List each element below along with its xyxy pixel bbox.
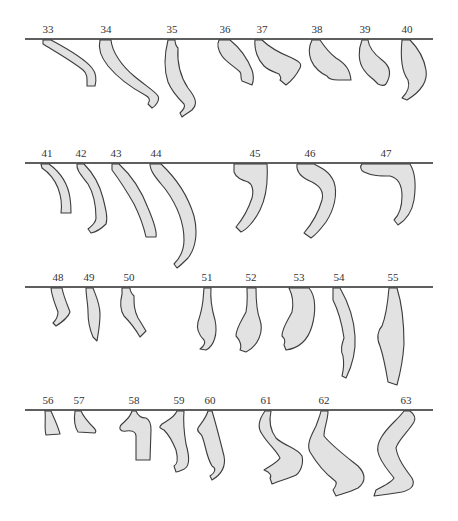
label-62: 62 xyxy=(319,394,330,406)
label-45: 45 xyxy=(250,147,262,159)
specimen-46 xyxy=(297,164,336,238)
label-36: 36 xyxy=(220,23,232,35)
specimen-40 xyxy=(401,40,426,100)
specimen-52 xyxy=(236,288,261,352)
specimen-59 xyxy=(160,411,189,472)
specimen-35 xyxy=(165,40,195,117)
label-37: 37 xyxy=(257,23,269,35)
specimen-62 xyxy=(309,411,364,496)
label-53: 53 xyxy=(294,271,306,283)
specimen-50 xyxy=(121,288,146,337)
label-49: 49 xyxy=(84,271,96,283)
specimen-63 xyxy=(374,411,415,496)
specimen-48 xyxy=(51,288,70,326)
label-44: 44 xyxy=(151,147,163,159)
specimen-33 xyxy=(43,40,96,86)
label-52: 52 xyxy=(246,271,257,283)
specimen-47 xyxy=(361,164,415,225)
specimen-41 xyxy=(41,164,71,213)
specimen-34 xyxy=(99,40,158,108)
label-55: 55 xyxy=(388,271,400,283)
specimen-56 xyxy=(45,411,60,435)
specimen-53 xyxy=(282,288,315,350)
specimen-54 xyxy=(333,288,355,378)
row-2: 41 42 43 44 45 46 47 xyxy=(25,147,433,268)
specimen-60 xyxy=(197,411,224,480)
specimen-57 xyxy=(74,411,95,433)
specimen-61 xyxy=(259,411,303,484)
label-50: 50 xyxy=(124,271,136,283)
specimen-38 xyxy=(309,40,351,80)
label-56: 56 xyxy=(43,394,55,406)
label-59: 59 xyxy=(174,394,186,406)
row-1: 33 34 35 36 37 38 39 40 xyxy=(25,23,433,117)
label-41: 41 xyxy=(42,147,53,159)
row-4: 56 57 58 59 60 61 62 63 xyxy=(25,394,433,496)
label-58: 58 xyxy=(129,394,141,406)
label-40: 40 xyxy=(402,23,414,35)
label-38: 38 xyxy=(312,23,324,35)
label-63: 63 xyxy=(401,394,413,406)
specimen-44 xyxy=(150,164,196,268)
label-61: 61 xyxy=(261,394,272,406)
specimen-49 xyxy=(86,288,100,341)
label-47: 47 xyxy=(381,147,393,159)
specimen-43 xyxy=(112,164,156,237)
row-3: 48 49 50 51 52 53 54 55 xyxy=(25,271,433,385)
specimen-36 xyxy=(218,40,254,85)
specimen-51 xyxy=(197,288,216,350)
label-51: 51 xyxy=(202,271,213,283)
label-43: 43 xyxy=(111,147,123,159)
specimen-42 xyxy=(77,164,107,233)
label-57: 57 xyxy=(74,394,86,406)
specimen-profile-diagram: 33 34 35 36 37 38 39 40 41 42 43 44 45 4… xyxy=(0,0,458,521)
label-48: 48 xyxy=(53,271,65,283)
label-46: 46 xyxy=(305,147,317,159)
label-33: 33 xyxy=(43,23,55,35)
specimen-55 xyxy=(378,288,404,385)
specimen-58 xyxy=(120,411,151,460)
label-34: 34 xyxy=(101,23,113,35)
label-54: 54 xyxy=(334,271,346,283)
specimen-45 xyxy=(234,164,267,232)
label-42: 42 xyxy=(76,147,87,159)
label-39: 39 xyxy=(360,23,372,35)
specimen-39 xyxy=(359,40,389,86)
specimen-37 xyxy=(255,40,301,85)
label-35: 35 xyxy=(167,23,179,35)
label-60: 60 xyxy=(205,394,217,406)
